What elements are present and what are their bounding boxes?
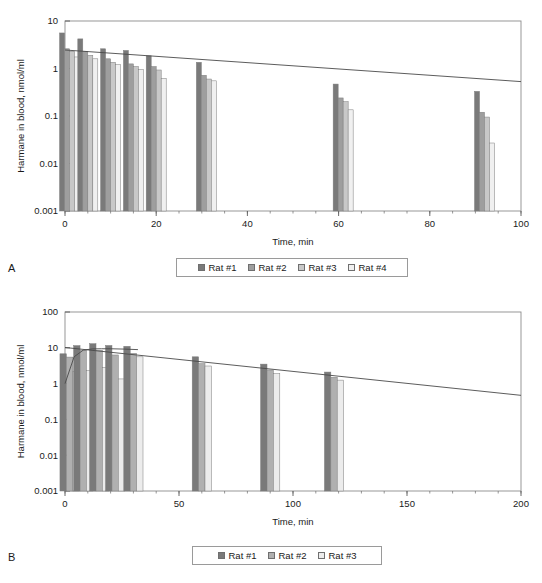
- bar: [60, 33, 65, 211]
- legend-item[interactable]: Rat #1: [198, 263, 237, 273]
- y-tick-label: 0.1: [45, 110, 58, 121]
- x-tick-label: 50: [174, 498, 185, 509]
- y-tick-label: 10: [47, 15, 58, 26]
- legend-item[interactable]: Rat #3: [298, 263, 337, 273]
- x-tick-label: 150: [399, 498, 415, 509]
- y-tick-label: 0.01: [40, 158, 59, 169]
- bar: [267, 370, 273, 491]
- panel-b-plot: 0.0010.010.1110100050100150200Time, minH…: [0, 291, 542, 541]
- panel-a-legend: Rat #1Rat #2Rat #3Rat #4: [176, 258, 408, 277]
- bar: [261, 364, 267, 491]
- bar: [90, 344, 96, 491]
- bar: [60, 354, 66, 491]
- bar: [199, 364, 205, 491]
- bar: [133, 67, 138, 211]
- legend-label: Rat #1: [209, 263, 237, 273]
- bar: [65, 49, 70, 211]
- bar: [324, 372, 330, 491]
- figure-root: 0.0010.010.1110020406080100Time, minHarm…: [0, 0, 542, 583]
- panel-a-chart: 0.0010.010.1110020406080100Time, minHarm…: [0, 0, 542, 250]
- x-tick-label: 20: [151, 218, 162, 229]
- legend-label: Rat #2: [279, 551, 307, 561]
- y-tick-label: 1: [53, 63, 58, 74]
- bar: [156, 70, 161, 211]
- legend-swatch-icon: [248, 264, 255, 271]
- bar: [128, 64, 133, 211]
- bar: [146, 56, 151, 211]
- legend-label: Rat #4: [359, 263, 387, 273]
- bar: [333, 84, 338, 211]
- y-tick-label: 0.001: [34, 485, 58, 496]
- legend-swatch-icon: [348, 264, 355, 271]
- bar: [192, 357, 198, 491]
- bar: [74, 346, 80, 491]
- x-axis-title: Time, min: [272, 236, 313, 247]
- bar: [130, 353, 136, 491]
- panel-b-legend: Rat #1Rat #2Rat #3: [192, 546, 382, 565]
- y-tick-label: 1: [53, 378, 58, 389]
- bar: [490, 143, 495, 211]
- legend-label: Rat #3: [309, 263, 337, 273]
- legend-item[interactable]: Rat #2: [268, 551, 307, 561]
- bar: [93, 59, 98, 211]
- y-axis-title: Harmane in blood, nmol/ml: [15, 59, 26, 173]
- x-tick-label: 0: [62, 498, 67, 509]
- panel-b: 0.0010.010.1110100050100150200Time, minH…: [0, 291, 542, 583]
- legend-item[interactable]: Rat #4: [348, 263, 387, 273]
- bar: [338, 98, 343, 211]
- panel-b-letter: B: [8, 551, 16, 563]
- bar: [161, 78, 166, 211]
- panel-a-letter: A: [8, 262, 16, 274]
- bar: [343, 102, 348, 211]
- legend-swatch-icon: [198, 264, 205, 271]
- x-tick-label: 80: [425, 218, 436, 229]
- bar: [331, 377, 337, 491]
- bar: [196, 62, 201, 211]
- bar: [123, 50, 128, 211]
- bar: [206, 79, 211, 211]
- legend-swatch-icon: [318, 552, 325, 559]
- bar: [211, 81, 216, 211]
- bar: [475, 91, 480, 211]
- bar: [96, 351, 102, 491]
- bar: [205, 366, 211, 491]
- legend-item[interactable]: Rat #3: [318, 551, 357, 561]
- legend-label: Rat #1: [229, 551, 257, 561]
- legend-label: Rat #3: [329, 551, 357, 561]
- x-tick-label: 0: [62, 218, 67, 229]
- bar: [138, 70, 143, 211]
- bar: [337, 380, 343, 491]
- bar: [111, 62, 116, 211]
- panel-a: 0.0010.010.1110020406080100Time, minHarm…: [0, 0, 542, 292]
- bar: [273, 374, 279, 491]
- legend-item[interactable]: Rat #2: [248, 263, 287, 273]
- bar: [112, 355, 118, 491]
- y-axis-title: Harmane in blood, nmol/ml: [15, 345, 26, 459]
- y-tick-label: 100: [42, 306, 58, 317]
- y-tick-label: 0.01: [40, 450, 59, 461]
- bar: [124, 346, 130, 491]
- y-tick-label: 10: [47, 342, 58, 353]
- bar: [480, 112, 485, 211]
- legend-swatch-icon: [298, 264, 305, 271]
- bar: [78, 39, 83, 211]
- panel-a-plot: 0.0010.010.1110020406080100Time, minHarm…: [0, 0, 542, 250]
- x-tick-label: 200: [513, 498, 529, 509]
- bar: [137, 357, 143, 491]
- x-tick-label: 100: [513, 218, 529, 229]
- bar: [201, 75, 206, 211]
- bar: [106, 59, 111, 211]
- bar: [70, 51, 75, 211]
- bar: [106, 345, 112, 491]
- y-tick-label: 0.1: [45, 414, 58, 425]
- bar: [88, 55, 93, 211]
- bar: [80, 351, 86, 491]
- x-tick-label: 100: [285, 498, 301, 509]
- bar: [101, 49, 106, 211]
- legend-swatch-icon: [218, 552, 225, 559]
- legend-swatch-icon: [268, 552, 275, 559]
- bar: [116, 65, 121, 211]
- legend-label: Rat #2: [259, 263, 287, 273]
- legend-item[interactable]: Rat #1: [218, 551, 257, 561]
- x-tick-label: 60: [333, 218, 344, 229]
